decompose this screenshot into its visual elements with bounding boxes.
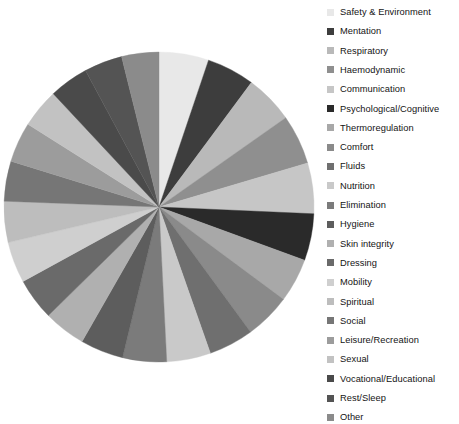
legend-item-label: Sexual	[340, 354, 369, 364]
legend-item-label: Skin integrity	[340, 239, 394, 249]
pie-chart-plot-area	[0, 0, 324, 424]
legend-swatch-icon	[327, 395, 334, 402]
legend-item[interactable]: Rest/Sleep	[327, 388, 386, 408]
legend-swatch-icon	[327, 375, 334, 382]
legend-swatch-icon	[327, 259, 334, 266]
legend-swatch-icon	[327, 66, 334, 73]
legend-item-label: Nutrition	[340, 181, 375, 191]
legend-item-label: Fluids	[340, 161, 365, 171]
legend-item-label: Haemodynamic	[340, 65, 405, 75]
legend-item[interactable]: Haemodynamic	[327, 60, 405, 80]
legend-swatch-icon	[327, 163, 334, 170]
legend-item[interactable]: Hygiene	[327, 214, 374, 234]
legend-item-label: Respiratory	[340, 46, 388, 56]
legend-item[interactable]: Safety & Environment	[327, 2, 431, 22]
legend-item[interactable]: Mentation	[327, 21, 381, 41]
legend-swatch-icon	[327, 414, 334, 421]
legend-item-label: Hygiene	[340, 219, 374, 229]
legend-item-label: Leisure/Recreation	[340, 335, 419, 345]
legend-item-label: Vocational/Educational	[340, 374, 435, 384]
legend-item[interactable]: Fluids	[327, 156, 365, 176]
legend-item[interactable]: Other	[327, 407, 363, 424]
legend-swatch-icon	[327, 279, 334, 286]
legend-item[interactable]: Leisure/Recreation	[327, 330, 419, 350]
legend-item[interactable]: Elimination	[327, 195, 386, 215]
legend-swatch-icon	[327, 86, 334, 93]
legend-swatch-icon	[327, 182, 334, 189]
legend-item-label: Comfort	[340, 142, 373, 152]
legend-item-label: Communication	[340, 84, 405, 94]
legend-item[interactable]: Vocational/Educational	[327, 369, 435, 389]
legend-swatch-icon	[327, 298, 334, 305]
legend-item-label: Safety & Environment	[340, 7, 431, 17]
legend-swatch-icon	[327, 47, 334, 54]
legend-item-label: Psychological/Cognitive	[340, 104, 439, 114]
legend-item[interactable]: Dressing	[327, 253, 377, 273]
pie-slice-group	[4, 52, 314, 362]
legend-item-label: Other	[340, 412, 363, 422]
legend-item[interactable]: Thermoregulation	[327, 118, 414, 138]
legend-item-label: Spiritual	[340, 297, 374, 307]
legend-swatch-icon	[327, 240, 334, 247]
pie-chart-figure: Safety & EnvironmentMentationRespiratory…	[0, 0, 459, 424]
legend-item-label: Dressing	[340, 258, 377, 268]
legend-swatch-icon	[327, 221, 334, 228]
legend-item[interactable]: Psychological/Cognitive	[327, 99, 439, 119]
legend-swatch-icon	[327, 124, 334, 131]
legend-swatch-icon	[327, 105, 334, 112]
legend-swatch-icon	[327, 337, 334, 344]
legend-swatch-icon	[327, 9, 334, 16]
legend-item[interactable]: Skin integrity	[327, 234, 394, 254]
legend-item[interactable]: Communication	[327, 79, 405, 99]
legend-item[interactable]: Mobility	[327, 272, 372, 292]
legend-item[interactable]: Sexual	[327, 349, 369, 369]
legend-item[interactable]: Comfort	[327, 137, 373, 157]
legend-item-label: Mentation	[340, 26, 381, 36]
legend-swatch-icon	[327, 202, 334, 209]
legend-item[interactable]: Social	[327, 311, 366, 331]
pie-chart-svg	[0, 0, 324, 424]
legend-swatch-icon	[327, 317, 334, 324]
legend-item-label: Social	[340, 316, 366, 326]
legend-swatch-icon	[327, 356, 334, 363]
chart-legend: Safety & EnvironmentMentationRespiratory…	[327, 0, 459, 424]
legend-swatch-icon	[327, 28, 334, 35]
legend-item[interactable]: Nutrition	[327, 176, 375, 196]
legend-item-label: Mobility	[340, 277, 372, 287]
legend-item-label: Elimination	[340, 200, 386, 210]
legend-item-label: Thermoregulation	[340, 123, 414, 133]
legend-item[interactable]: Spiritual	[327, 292, 374, 312]
legend-item[interactable]: Respiratory	[327, 41, 388, 61]
legend-item-label: Rest/Sleep	[340, 393, 386, 403]
legend-swatch-icon	[327, 144, 334, 151]
